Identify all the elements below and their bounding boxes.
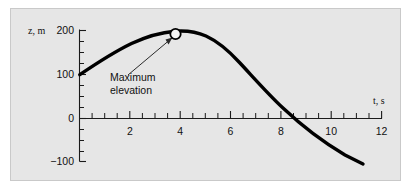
maximum-elevation-marker xyxy=(170,29,180,39)
trajectory-chart: 200 100 0 −100 z, m xyxy=(11,9,401,181)
x-axis: 2 4 6 8 10 12 t, s xyxy=(80,95,388,137)
annotation-label-line-1: Maximum xyxy=(110,71,156,83)
elevation-curve xyxy=(80,31,363,164)
figure-root: 200 100 0 −100 z, m xyxy=(0,0,416,190)
x-tick-label-10: 10 xyxy=(325,125,337,137)
y-axis-title: z, m xyxy=(28,25,45,36)
plot-panel: 200 100 0 −100 z, m xyxy=(10,8,401,181)
x-tick-label-8: 8 xyxy=(278,125,284,137)
y-tick-label-0: 0 xyxy=(68,112,74,124)
x-tick-label-2: 2 xyxy=(127,125,133,137)
y-tick-label-200: 200 xyxy=(56,24,74,36)
x-tick-label-6: 6 xyxy=(228,125,234,137)
annotation-label-line-2: elevation xyxy=(110,84,152,96)
x-axis-title: t, s xyxy=(373,95,385,106)
y-tick-label-100: 100 xyxy=(56,68,74,80)
x-tick-label-12: 12 xyxy=(376,125,388,137)
x-tick-label-4: 4 xyxy=(177,125,183,137)
y-tick-label-neg100: −100 xyxy=(50,155,74,167)
y-axis: 200 100 0 −100 z, m xyxy=(28,24,86,167)
